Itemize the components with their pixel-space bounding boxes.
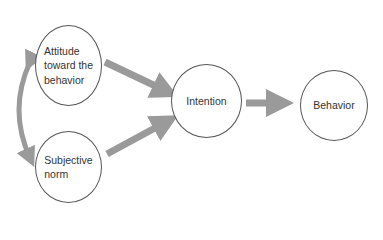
intention-node: Intention (171, 64, 242, 138)
subjective-norm-label: Subjective norm (44, 153, 92, 181)
attitude-label: Attitude toward the behavior (44, 44, 93, 87)
behavior-label: Behavior (313, 98, 354, 112)
attitude-to-intention-arrow (105, 62, 166, 91)
subjective-norm-label-line1: Subjective (44, 153, 92, 167)
attitude-node: Attitude toward the behavior (35, 25, 102, 106)
attitude-label-line1: Attitude (44, 44, 93, 58)
norm-to-intention-arrow (107, 122, 166, 154)
subjective-norm-label-line2: norm (44, 167, 92, 181)
subjective-norm-node: Subjective norm (35, 131, 102, 203)
attitude-label-line2: toward the (44, 58, 93, 72)
behavior-node: Behavior (300, 70, 368, 141)
correlation-arrow (19, 62, 30, 158)
intention-label: Intention (186, 94, 226, 108)
attitude-label-line3: behavior (44, 73, 93, 87)
